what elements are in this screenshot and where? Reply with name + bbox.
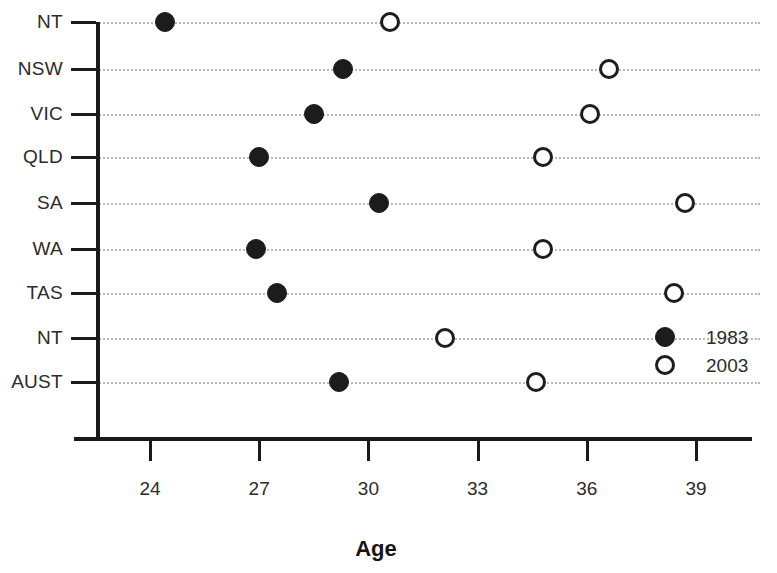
gridline [96,114,760,116]
data-point-sa-4-1983 [369,193,389,213]
data-point-qld-3-1983 [249,147,269,167]
gridline [96,22,760,24]
x-axis-tick-label-24: 24 [110,479,190,498]
x-axis-tick [367,441,370,461]
y-axis-tick-label-qld-3: QLD [0,147,63,166]
data-point-nsw-1-1983 [333,59,353,79]
y-axis-tick-label-nt-7: NT [0,328,63,347]
x-axis-tick-label-39: 39 [656,479,736,498]
legend-marker-1983 [655,327,675,347]
legend-label-1983: 1983 [706,328,748,347]
y-axis-tick [71,68,96,71]
y-axis-tick [71,381,96,384]
data-point-nt-0-2003 [380,12,400,32]
y-axis-tick [71,292,96,295]
data-point-wa-5-1983 [246,239,266,259]
data-point-sa-4-2003 [675,193,695,213]
data-point-vic-2-1983 [304,104,324,124]
data-point-tas-6-1983 [267,283,287,303]
x-axis-tick-label-33: 33 [438,479,518,498]
gridline [96,293,760,295]
y-axis-tick [71,202,96,205]
data-point-qld-3-2003 [533,147,553,167]
data-point-nsw-1-2003 [599,59,619,79]
x-axis-tick [586,441,589,461]
x-axis-tick-label-27: 27 [219,479,299,498]
data-point-nt-7-2003 [435,328,455,348]
gridline [96,157,760,159]
y-axis-tick-label-wa-5: WA [0,239,63,258]
y-axis-line [96,22,100,437]
gridline [96,69,760,71]
y-axis-tick [71,156,96,159]
x-axis-tick [258,441,261,461]
x-axis-tick [695,441,698,461]
legend-label-2003: 2003 [706,356,748,375]
x-axis-tick [477,441,480,461]
dot-plot-chart: NTNSWVICQLDSAWATASNTAUST2427303336391983… [0,0,777,573]
y-axis-tick-label-sa-4: SA [0,193,63,212]
y-axis-tick-label-nt-0: NT [0,12,63,31]
y-axis-tick [71,113,96,116]
gridline [96,249,760,251]
gridline [96,382,760,384]
data-point-vic-2-2003 [580,104,600,124]
y-axis-tick-label-aust-8: AUST [0,372,63,391]
y-axis-tick [71,21,96,24]
data-point-nt-0-1983 [155,12,175,32]
data-point-aust-8-2003 [526,372,546,392]
x-axis-line [74,437,752,441]
data-point-aust-8-1983 [329,372,349,392]
y-axis-tick-label-nsw-1: NSW [0,59,63,78]
data-point-tas-6-2003 [664,283,684,303]
gridline [96,203,760,205]
data-point-wa-5-2003 [533,239,553,259]
x-axis-tick [149,441,152,461]
legend-marker-2003 [655,355,675,375]
x-axis-tick-label-30: 30 [328,479,408,498]
x-axis-title: Age [0,538,752,560]
y-axis-tick-label-tas-6: TAS [0,283,63,302]
y-axis-tick [71,248,96,251]
x-axis-tick-label-36: 36 [547,479,627,498]
y-axis-tick-label-vic-2: VIC [0,104,63,123]
y-axis-tick [71,337,96,340]
